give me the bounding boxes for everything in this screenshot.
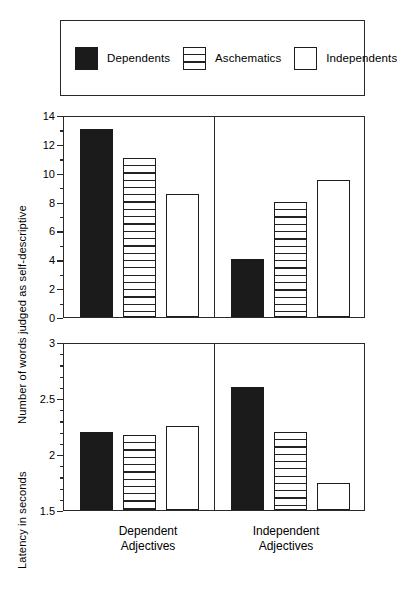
y-tick-label: 2.5 — [40, 393, 55, 405]
legend-swatch-hatched-icon — [183, 47, 206, 70]
bar-independents-group2 — [317, 483, 350, 510]
y-tick-label: 2 — [49, 283, 55, 295]
x-label-dependent-line1: Dependent — [83, 524, 213, 539]
legend-item-aschematics: Aschematics — [183, 47, 281, 70]
x-label-dependent-line2: Adjectives — [83, 539, 213, 554]
bar-independents-group1 — [166, 194, 199, 317]
y-tick — [57, 318, 63, 319]
legend-label-independents: Independents — [326, 52, 397, 64]
x-axis-group-independent: Independent Adjectives — [216, 524, 356, 553]
chart-words-self-descriptive: Number of words judged as self-descripti… — [0, 108, 384, 326]
y-tick-label: 3 — [49, 337, 55, 349]
y-tick-label: 14 — [43, 110, 55, 122]
bar-independents-group1 — [166, 426, 199, 510]
y-axis-top: 02468101214 — [30, 108, 63, 326]
legend-items: Dependents Aschematics Independents — [61, 21, 364, 95]
bar-dependents-group2 — [231, 387, 264, 510]
chart-latency-seconds: Latency in seconds 1.522.53 — [0, 336, 384, 518]
y-tick — [57, 511, 63, 512]
plot-area-bottom — [63, 343, 365, 511]
y-tick-label: 4 — [49, 254, 55, 266]
legend-swatch-open-icon — [294, 47, 317, 70]
x-label-independent-line2: Adjectives — [216, 539, 356, 554]
x-axis-group-dependent: Dependent Adjectives — [83, 524, 213, 553]
bar-dependents-group1 — [80, 129, 113, 317]
legend-label-dependents: Dependents — [107, 52, 170, 64]
legend-label-aschematics: Aschematics — [215, 52, 281, 64]
legend: Dependents Aschematics Independents — [60, 20, 365, 96]
legend-swatch-solid-icon — [75, 47, 98, 70]
x-label-independent-line1: Independent — [216, 524, 356, 539]
y-axis-title-bottom: Latency in seconds — [16, 471, 28, 569]
y-tick-label: 6 — [49, 225, 55, 237]
bar-dependents-group2 — [231, 259, 264, 317]
group-divider-top — [214, 117, 215, 317]
bar-aschematics-group2 — [274, 432, 307, 510]
bar-aschematics-group1 — [123, 435, 156, 510]
legend-item-dependents: Dependents — [75, 47, 170, 70]
y-tick-label: 12 — [43, 139, 55, 151]
y-tick-label: 1.5 — [40, 505, 55, 517]
y-tick-label: 0 — [49, 312, 55, 324]
bar-dependents-group1 — [80, 432, 113, 510]
plot-area-top — [63, 116, 365, 318]
y-tick-label: 10 — [43, 168, 55, 180]
y-tick-label: 2 — [49, 449, 55, 461]
legend-item-independents: Independents — [294, 47, 397, 70]
y-tick-label: 8 — [49, 197, 55, 209]
bar-independents-group2 — [317, 180, 350, 317]
bar-aschematics-group1 — [123, 158, 156, 317]
bar-aschematics-group2 — [274, 202, 307, 317]
group-divider-bottom — [214, 344, 215, 510]
y-axis-bottom: 1.522.53 — [30, 336, 63, 518]
